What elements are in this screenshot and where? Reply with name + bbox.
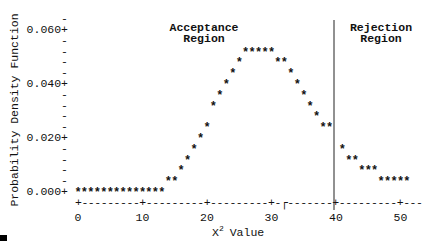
chi-square-density-chart: Probability Density Function 0.000+----0…: [0, 0, 428, 241]
y-axis-label: Probability Density Function: [8, 13, 21, 206]
svg-text:Region: Region: [183, 32, 225, 45]
x-tick-label: 50: [394, 211, 408, 224]
svg-text:Region: Region: [360, 32, 402, 45]
x-tick-label: 40: [329, 211, 343, 224]
x-tick-label: 20: [200, 211, 214, 224]
x-axis-label: X2Value: [212, 224, 264, 239]
data-point: *: [326, 121, 333, 135]
corner-mark: [0, 235, 7, 241]
svg-text:X2Value: X2Value: [212, 224, 264, 239]
x-tick-label: 0: [75, 211, 82, 224]
x-tick-label: 30: [265, 211, 279, 224]
x-tick-label: 10: [136, 211, 150, 224]
data-point: *: [403, 175, 410, 189]
data-point: *: [203, 121, 210, 135]
acceptance-region-label: Acceptance Region: [169, 21, 238, 45]
y-minor-tick: -: [61, 12, 68, 25]
y-axis: 0.000+----0.020+----0.040+----0.060+-: [27, 12, 69, 198]
data-points: ****************************************…: [74, 46, 410, 200]
rejection-region-label: Rejection Region: [350, 21, 412, 45]
x-axis: +---------+---------+---------+-┌-------…: [75, 196, 423, 224]
